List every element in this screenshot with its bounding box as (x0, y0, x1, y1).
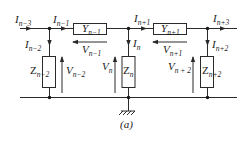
label-sub: n+2 (216, 44, 229, 53)
label-sub: n−2 (73, 70, 86, 79)
label-i-n-2: In−2 (25, 39, 41, 53)
label-v-n-2: Vn−2 (66, 65, 85, 79)
label-sub: n (109, 66, 113, 75)
label-v-n+1: Vn+1 (163, 44, 182, 58)
label-v-n+2: Vn + 2 (168, 61, 191, 75)
junction-node (48, 27, 52, 31)
junction-node (206, 96, 210, 100)
label-sub: n−1 (89, 49, 102, 58)
label-base: Z (123, 64, 130, 76)
label-base: Z (30, 64, 37, 76)
label-base: V (66, 64, 73, 76)
label-sub: n−2 (29, 44, 42, 53)
label-base: V (82, 43, 89, 55)
label-i-n+3: In+3 (213, 13, 229, 27)
label-base: V (102, 60, 109, 72)
label-i-n-3: In−3 (15, 14, 31, 28)
label-sub: n−1 (57, 19, 70, 28)
label-z-n-2: Zn−2 (30, 65, 49, 79)
label-base: V (168, 60, 175, 72)
label-z-n: Zn (123, 65, 133, 79)
label-sub: n (130, 70, 134, 79)
label-sub: n+3 (217, 18, 230, 27)
junction-node (127, 96, 131, 100)
label-v-n-1: Vn−1 (82, 44, 101, 58)
label-v-n: Vn (102, 61, 112, 75)
label-sub: n (137, 43, 141, 52)
label-sub: n + 2 (175, 66, 191, 75)
label-sub: n+1 (170, 49, 183, 58)
label-i-n: In (133, 38, 140, 52)
label-sub: n−1 (88, 28, 101, 37)
label-i-n-1: In−1 (53, 14, 69, 28)
junction-node (48, 96, 52, 100)
label-sub: n+1 (138, 18, 151, 27)
label-sub: n−2 (37, 70, 50, 79)
label-sub: n−3 (19, 19, 32, 28)
label-base: V (163, 43, 170, 55)
label-i-n+1: In+1 (134, 13, 150, 27)
label-sub: n+1 (167, 28, 180, 37)
label-y-n-1: Yn−1 (82, 23, 101, 37)
junction-node (206, 27, 210, 31)
label-i-n+2: In+2 (212, 39, 228, 53)
label-z-n+2: Zn+2 (202, 65, 221, 79)
label-y-n+1: Yn+1 (161, 23, 180, 37)
junction-node (127, 27, 131, 31)
figure-caption: (a) (120, 118, 133, 130)
label-base: Z (202, 64, 209, 76)
label-sub: n+2 (209, 70, 222, 79)
